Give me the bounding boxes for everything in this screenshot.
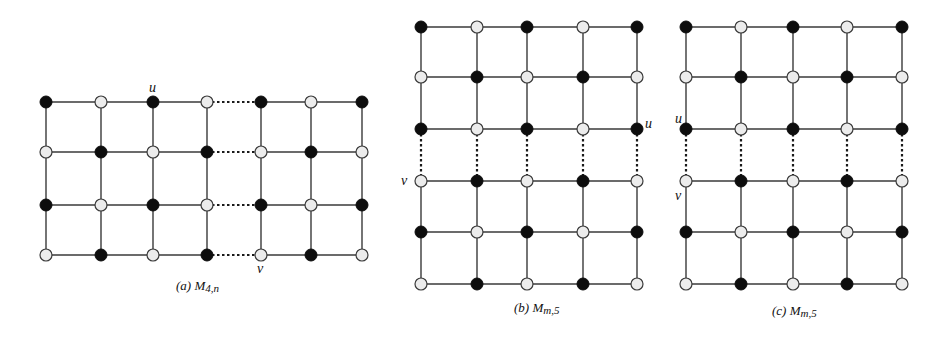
- white-vertex: [577, 123, 589, 135]
- panel-caption: (c) Mm,5: [772, 303, 817, 319]
- white-vertex: [471, 123, 483, 135]
- white-vertex: [680, 175, 692, 187]
- black-vertex: [147, 199, 159, 211]
- white-vertex: [201, 199, 213, 211]
- white-vertex: [841, 21, 853, 33]
- edges: [686, 27, 902, 284]
- white-vertex: [147, 146, 159, 158]
- black-vertex: [577, 71, 589, 83]
- black-vertex: [471, 71, 483, 83]
- panel-a-mesh-4-by-n: uv(a) M4,n: [40, 80, 368, 294]
- white-vertex: [305, 96, 317, 108]
- white-vertex: [356, 146, 368, 158]
- black-vertex: [680, 21, 692, 33]
- black-vertex: [787, 123, 799, 135]
- vertices: [415, 21, 643, 290]
- black-vertex: [356, 96, 368, 108]
- white-vertex: [787, 278, 799, 290]
- white-vertex: [255, 249, 267, 261]
- black-vertex: [201, 249, 213, 261]
- white-vertex: [147, 249, 159, 261]
- white-vertex: [521, 278, 533, 290]
- vertex-label-v: v: [401, 173, 408, 188]
- white-vertex: [680, 278, 692, 290]
- edges: [421, 27, 637, 284]
- black-vertex: [735, 71, 747, 83]
- white-vertex: [415, 71, 427, 83]
- white-vertex: [40, 146, 52, 158]
- white-vertex: [735, 123, 747, 135]
- black-vertex: [521, 226, 533, 238]
- black-vertex: [735, 278, 747, 290]
- white-vertex: [735, 21, 747, 33]
- vertex-label-u: u: [675, 111, 682, 126]
- black-vertex: [201, 146, 213, 158]
- white-vertex: [896, 278, 908, 290]
- white-vertex: [40, 249, 52, 261]
- white-vertex: [356, 249, 368, 261]
- black-vertex: [631, 21, 643, 33]
- white-vertex: [521, 71, 533, 83]
- black-vertex: [787, 21, 799, 33]
- white-vertex: [305, 199, 317, 211]
- black-vertex: [356, 199, 368, 211]
- vertex-label-u: u: [645, 116, 652, 131]
- black-vertex: [521, 123, 533, 135]
- panel-c-mesh-m-by-5: uv(c) Mm,5: [675, 21, 908, 319]
- black-vertex: [305, 146, 317, 158]
- white-vertex: [577, 226, 589, 238]
- panel-caption: (a) M4,n: [176, 278, 220, 294]
- black-vertex: [415, 226, 427, 238]
- white-vertex: [471, 21, 483, 33]
- vertex-label-v: v: [675, 188, 682, 203]
- white-vertex: [201, 96, 213, 108]
- black-vertex: [415, 123, 427, 135]
- black-vertex: [40, 199, 52, 211]
- white-vertex: [471, 226, 483, 238]
- white-vertex: [841, 226, 853, 238]
- black-vertex: [471, 278, 483, 290]
- black-vertex: [841, 71, 853, 83]
- white-vertex: [735, 226, 747, 238]
- black-vertex: [896, 226, 908, 238]
- white-vertex: [255, 146, 267, 158]
- vertex-label-v: v: [257, 261, 264, 276]
- black-vertex: [631, 123, 643, 135]
- white-vertex: [415, 175, 427, 187]
- black-vertex: [735, 175, 747, 187]
- white-vertex: [631, 278, 643, 290]
- panel-b-mesh-m-by-5: uv(b) Mm,5: [401, 21, 652, 316]
- white-vertex: [680, 71, 692, 83]
- white-vertex: [95, 96, 107, 108]
- white-vertex: [521, 175, 533, 187]
- black-vertex: [95, 249, 107, 261]
- vertex-label-u: u: [149, 80, 156, 95]
- black-vertex: [40, 96, 52, 108]
- vertices: [40, 96, 368, 261]
- white-vertex: [841, 123, 853, 135]
- white-vertex: [896, 175, 908, 187]
- black-vertex: [255, 96, 267, 108]
- black-vertex: [841, 175, 853, 187]
- grid-graph-figure: uv(a) M4,n uv(b) Mm,5 uv(c) Mm,5: [0, 0, 947, 339]
- black-vertex: [787, 226, 799, 238]
- edges: [46, 102, 362, 255]
- white-vertex: [415, 278, 427, 290]
- black-vertex: [841, 278, 853, 290]
- black-vertex: [95, 146, 107, 158]
- black-vertex: [577, 175, 589, 187]
- black-vertex: [896, 21, 908, 33]
- black-vertex: [521, 21, 533, 33]
- black-vertex: [631, 226, 643, 238]
- white-vertex: [95, 199, 107, 211]
- white-vertex: [787, 175, 799, 187]
- white-vertex: [787, 71, 799, 83]
- white-vertex: [631, 71, 643, 83]
- black-vertex: [577, 278, 589, 290]
- white-vertex: [577, 21, 589, 33]
- white-vertex: [631, 175, 643, 187]
- black-vertex: [305, 249, 317, 261]
- black-vertex: [680, 226, 692, 238]
- black-vertex: [255, 199, 267, 211]
- white-vertex: [896, 71, 908, 83]
